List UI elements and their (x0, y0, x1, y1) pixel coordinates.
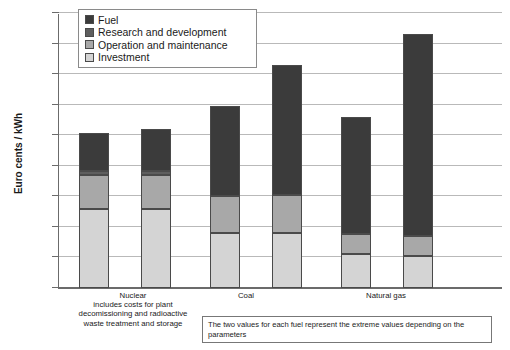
bar-segment-fuel (210, 106, 240, 196)
ytick-2.50 (52, 134, 59, 135)
bar-segment-fuel (79, 133, 109, 171)
bar-segment-fuel (141, 129, 171, 172)
bar-segment-operation-and-maintenance (210, 196, 240, 233)
legend-label-operation-and-maintenance: Operation and maintenance (98, 39, 228, 51)
bar-segment-investment (79, 209, 109, 288)
legend-label-investment: Investment (98, 51, 149, 63)
bar-segment-investment (210, 233, 240, 288)
stacked-bar-chart: Euro cents / kWh 4,50 4,00 3,50 3,00 2,5… (0, 0, 510, 350)
legend-swatch-fuel-icon (85, 15, 94, 24)
bar-segment-investment (141, 209, 171, 288)
legend-swatch-research-and-development-icon (85, 28, 94, 37)
category-label-natural-gas: Natural gas (346, 291, 426, 300)
bar-segment-fuel (403, 34, 433, 236)
bar-segment-operation-and-maintenance (79, 175, 109, 209)
bar-segment-fuel (272, 65, 302, 195)
bar-segment-investment (272, 233, 302, 288)
legend-item-operation-and-maintenance[interactable]: Operation and maintenance (85, 39, 228, 51)
ytick-0.50 (52, 256, 59, 257)
ytick-4.50 (52, 12, 59, 13)
ytick-3.50 (52, 73, 59, 74)
ytick-1.50 (52, 195, 59, 196)
ytick-4.00 (52, 43, 59, 44)
legend-item-investment[interactable]: Investment (85, 51, 228, 63)
ytick-2.00 (52, 165, 59, 166)
legend-item-fuel[interactable]: Fuel (85, 14, 228, 26)
category-label-nuclear: Nuclear includes costs for plant decomis… (58, 291, 208, 328)
legend-swatch-investment-icon (85, 53, 94, 62)
bar-segment-research-and-development (79, 171, 109, 175)
legend-label-research-and-development: Research and development (98, 26, 226, 38)
legend-label-fuel: Fuel (98, 14, 118, 26)
y-axis-title: Euro cents / kWh (13, 74, 24, 234)
bar-segment-operation-and-maintenance (403, 236, 433, 256)
ytick-0.00 (52, 287, 59, 288)
footnote-box: The two values for each fuel represent t… (202, 316, 492, 343)
bar-segment-fuel (341, 117, 371, 234)
bar-segment-investment (403, 256, 433, 288)
ytick-3.00 (52, 104, 59, 105)
bar-segment-investment (341, 254, 371, 288)
bar-segment-research-and-development (141, 171, 171, 175)
bar-segment-operation-and-maintenance (341, 234, 371, 254)
legend-swatch-operation-and-maintenance-icon (85, 40, 94, 49)
chart-legend: Fuel Research and development Operation … (78, 9, 257, 68)
ytick-1.00 (52, 226, 59, 227)
category-label-coal: Coal (216, 291, 276, 300)
bar-segment-operation-and-maintenance (141, 175, 171, 209)
bar-segment-operation-and-maintenance (272, 195, 302, 233)
legend-item-research-and-development[interactable]: Research and development (85, 26, 228, 38)
